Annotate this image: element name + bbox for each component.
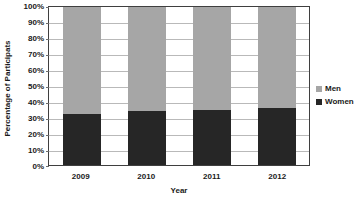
x-axis-tick-label: 2012 [258, 172, 296, 181]
y-axis-tick-label: 50% [28, 82, 44, 91]
legend-swatch-icon [316, 99, 322, 105]
y-axis-tick-label: 100% [24, 2, 44, 11]
y-axis-tick-label: 10% [28, 146, 44, 155]
bar-segment-men[interactable] [193, 7, 231, 110]
legend-swatch-icon [316, 86, 322, 92]
bar-segment-women[interactable] [128, 111, 166, 165]
bar-column[interactable] [128, 7, 166, 165]
legend-label: Men [325, 84, 341, 93]
bar-segment-men[interactable] [128, 7, 166, 111]
bar-segment-women[interactable] [193, 110, 231, 165]
plot-area [48, 6, 310, 166]
y-axis-tick-mark [46, 166, 49, 167]
y-axis-tick-label: 40% [28, 98, 44, 107]
x-axis-tick-labels: 2009201020112012 [48, 168, 310, 184]
legend-item-women[interactable]: Women [316, 97, 356, 106]
legend-label: Women [325, 97, 354, 106]
bar-column[interactable] [63, 7, 101, 165]
legend-item-men[interactable]: Men [316, 84, 356, 93]
bar-segment-women[interactable] [63, 114, 101, 165]
y-axis-tick-labels: 0%10%20%30%40%50%60%70%80%90%100% [12, 6, 46, 166]
y-axis-tick-label: 60% [28, 66, 44, 75]
y-axis-tick-label: 90% [28, 18, 44, 27]
y-axis-tick-label: 0% [32, 162, 44, 171]
x-axis-tick-label: 2011 [193, 172, 231, 181]
chart-legend: MenWomen [316, 84, 356, 110]
y-axis-title-text: Percentage of Participats [3, 40, 12, 136]
bar-segment-men[interactable] [258, 7, 296, 108]
y-axis-tick-label: 70% [28, 50, 44, 59]
y-axis-tick-label: 20% [28, 130, 44, 139]
x-axis-tick-label: 2010 [127, 172, 165, 181]
bar-segment-women[interactable] [258, 108, 296, 165]
y-axis-tick-label: 80% [28, 34, 44, 43]
x-axis-tick-label: 2009 [62, 172, 100, 181]
bar-group [49, 7, 309, 165]
bar-segment-men[interactable] [63, 7, 101, 114]
y-axis-tick-label: 30% [28, 114, 44, 123]
bar-column[interactable] [258, 7, 296, 165]
stacked-bar-chart: Percentage of Participats 0%10%20%30%40%… [0, 0, 356, 206]
bar-column[interactable] [193, 7, 231, 165]
x-axis-title: Year [48, 186, 310, 195]
